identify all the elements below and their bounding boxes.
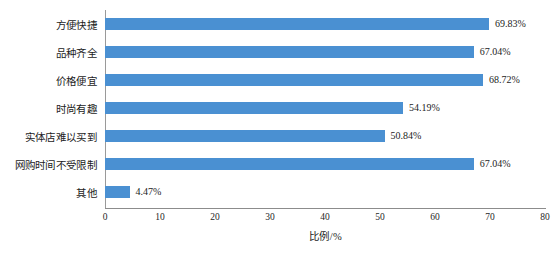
category-label: 方便快捷 [0,10,101,38]
bar-value-label: 69.83% [489,18,526,30]
bar [105,46,474,58]
bar [105,102,403,114]
x-axis-ticks: 01020304050607080 [105,209,546,227]
bar-value-label: 67.04% [474,158,511,170]
category-label: 价格便宜 [0,66,101,94]
category-label: 时尚有趣 [0,94,101,122]
bar [105,130,385,142]
bar-row: 68.72% [105,66,545,94]
bar-row: 50.84% [105,122,545,150]
bar-row: 69.83% [105,10,545,38]
plot-area: 69.83%67.04%68.72%54.19%50.84%67.04%4.47… [105,10,545,208]
bar-row: 4.47% [105,178,545,206]
category-label: 其他 [0,178,101,206]
bar-value-label: 4.47% [130,186,162,198]
bar-value-label: 68.72% [483,74,520,86]
x-tick-label: 10 [155,212,165,222]
horizontal-bar-chart: 方便快捷品种齐全价格便宜时尚有趣实体店难以买到网购时间不受限制其他 69.83%… [0,0,560,255]
x-tick-label: 20 [210,212,220,222]
bar [105,158,474,170]
category-axis-labels: 方便快捷品种齐全价格便宜时尚有趣实体店难以买到网购时间不受限制其他 [0,10,101,208]
x-axis-title: 比例/% [105,228,546,243]
x-tick-label: 60 [430,212,440,222]
bar-row: 54.19% [105,94,545,122]
category-label: 网购时间不受限制 [0,150,101,178]
x-tick-label: 30 [265,212,275,222]
bar [105,74,483,86]
bar-value-label: 67.04% [474,46,511,58]
bar-value-label: 54.19% [403,102,440,114]
category-label: 品种齐全 [0,38,101,66]
x-tick-label: 50 [375,212,385,222]
bar [105,186,130,198]
x-tick-label: 80 [540,212,550,222]
bar [105,18,489,30]
bar-value-label: 50.84% [385,130,422,142]
bar-row: 67.04% [105,38,545,66]
x-tick-label: 0 [103,212,108,222]
x-tick-label: 70 [485,212,495,222]
category-label: 实体店难以买到 [0,122,101,150]
x-tick-label: 40 [320,212,330,222]
bar-row: 67.04% [105,150,545,178]
